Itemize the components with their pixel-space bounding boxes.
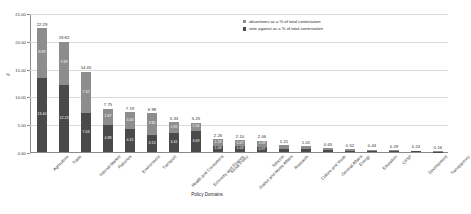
bar-column[interactable]: 2.101.071.03	[235, 140, 244, 152]
segment-value-label: 1.18	[215, 141, 222, 145]
segment-value-label: 12.13	[60, 117, 69, 121]
legend-label: vote against as a % of total contestatio…	[249, 26, 323, 31]
bar-segment-abstentions[interactable]: 7.42	[81, 72, 90, 113]
bar-segment-vote-against[interactable]: 3.41	[169, 133, 178, 152]
bar-total-label: 2.06	[258, 134, 266, 139]
bar-segment-vote-against[interactable]	[345, 151, 354, 153]
bar-segment-vote-against[interactable]: 1.08	[213, 146, 222, 152]
segment-value-label: 7.69	[61, 61, 68, 65]
y-tick-mark	[27, 42, 30, 43]
segment-value-label: 8.89	[39, 51, 46, 55]
bar-segment-abstentions[interactable]: 8.89	[37, 28, 46, 77]
bar-total-label: 0.65	[324, 142, 332, 147]
segment-value-label: 1.56	[193, 125, 200, 129]
segment-value-label: 7.03	[83, 131, 90, 135]
bar-segment-vote-against[interactable]: 0.97	[257, 147, 266, 152]
segment-value-label: 4.15	[127, 139, 134, 143]
x-axis-label: Research	[293, 154, 309, 170]
bar-column[interactable]: 6.983.853.13	[147, 113, 156, 152]
bar-total-label: 14.45	[81, 65, 92, 70]
bar-column[interactable]: 7.752.874.88	[103, 109, 112, 152]
bar-column[interactable]: 5.331.923.41	[169, 122, 178, 152]
bar-column[interactable]: 0.16	[433, 151, 442, 152]
y-tick-label: 25.00	[15, 12, 26, 17]
legend-label: absentions as a % of total contestation	[249, 19, 321, 24]
bar-segment-vote-against[interactable]: 3.69	[191, 131, 200, 152]
bar-segment-vote-against[interactable]	[389, 151, 398, 152]
y-tick-mark	[27, 97, 30, 98]
bar-total-label: 2.26	[214, 133, 222, 138]
x-axis-label: Transport	[161, 154, 177, 170]
bar-total-label: 7.19	[126, 106, 134, 111]
bar-column[interactable]: 0.24	[411, 151, 420, 152]
legend-swatch-icon	[243, 27, 246, 30]
segment-value-label: 3.41	[171, 141, 178, 145]
legend-item[interactable]: absentions as a % of total contestation	[243, 19, 323, 24]
bar-column[interactable]: 5.251.563.69	[191, 123, 200, 152]
bar-segment-abstentions[interactable]: 3.85	[147, 113, 156, 134]
bar-segment-vote-against[interactable]	[411, 151, 420, 152]
bar-total-label: 0.44	[368, 143, 376, 148]
bar-segment-vote-against[interactable]: 3.13	[147, 135, 156, 152]
legend-item[interactable]: vote against as a % of total contestatio…	[243, 26, 323, 31]
segment-value-label: 1.92	[171, 126, 178, 130]
bar-column[interactable]: 1.21	[279, 145, 288, 152]
bar-total-label: 6.98	[148, 107, 156, 112]
segment-value-label: 1.07	[237, 142, 244, 146]
y-tick-label: 20.00	[15, 39, 26, 44]
bar-column[interactable]: 2.061.090.97	[257, 141, 266, 152]
bar-segment-abstentions[interactable]: 7.69	[59, 42, 68, 85]
legend: absentions as a % of total contestationv…	[243, 19, 323, 34]
segment-value-label: 3.69	[193, 140, 200, 144]
segment-value-label: 3.85	[149, 122, 156, 126]
bar-segment-vote-against[interactable]: 1.03	[235, 146, 244, 152]
bar-segment-vote-against[interactable]	[367, 151, 376, 152]
bar-segment-vote-against[interactable]	[279, 149, 288, 152]
x-axis-label: Environment	[141, 154, 161, 174]
segment-value-label: 3.04	[127, 119, 134, 123]
x-axis-line	[30, 152, 448, 153]
bar-total-label: 0.29	[390, 144, 398, 149]
bar-segment-abstentions[interactable]: 1.92	[169, 122, 178, 133]
bar-segment-abstentions[interactable]: 1.56	[191, 123, 200, 132]
bar-segment-vote-against[interactable]: 7.03	[81, 113, 90, 152]
bar-column[interactable]: 0.65	[323, 148, 332, 152]
segment-value-label: 2.87	[105, 115, 112, 119]
bar-column[interactable]: 1.01	[301, 146, 310, 152]
bar-segment-abstentions[interactable]: 3.04	[125, 112, 134, 129]
y-tick-label: 0.00	[18, 151, 26, 156]
x-axis-label: Education	[381, 154, 398, 171]
bar-column[interactable]: 0.52	[345, 149, 354, 152]
bar-segment-vote-against[interactable]	[323, 150, 332, 152]
bar-segment-vote-against[interactable]: 4.88	[103, 125, 112, 152]
bars-layer: 22.298.8913.4019.827.6912.1314.457.427.0…	[31, 14, 448, 152]
bar-segment-vote-against[interactable]	[301, 149, 310, 152]
y-tick-mark	[27, 153, 30, 154]
bar-segment-abstentions[interactable]: 2.87	[103, 109, 112, 125]
x-axis-label: Agriculture	[52, 154, 70, 172]
bar-total-label: 0.24	[412, 144, 420, 149]
bar-total-label: 5.33	[170, 116, 178, 121]
bar-total-label: 0.52	[346, 143, 354, 148]
bar-segment-vote-against[interactable]: 12.13	[59, 85, 68, 152]
bar-column[interactable]: 19.827.6912.13	[59, 42, 68, 152]
segment-value-label: 0.97	[259, 148, 266, 152]
bar-column[interactable]: 2.261.181.08	[213, 139, 222, 152]
bar-segment-vote-against[interactable]: 4.15	[125, 129, 134, 152]
bar-segment-vote-against[interactable]: 13.40	[37, 78, 46, 153]
bar-column[interactable]: 0.44	[367, 150, 376, 152]
segment-value-label: 4.88	[105, 137, 112, 141]
bar-column[interactable]: 22.298.8913.40	[37, 28, 46, 152]
x-axis-title-text: Policy Domains	[191, 192, 223, 197]
segment-value-label: 1.03	[237, 147, 244, 151]
bar-total-label: 1.21	[280, 139, 288, 144]
plot-area: 0.005.0010.0015.0020.0025.00 22.298.8913…	[30, 14, 448, 153]
bar-total-label: 5.25	[192, 116, 200, 121]
bar-column[interactable]: 7.193.044.15	[125, 112, 134, 152]
bar-column[interactable]: 14.457.427.03	[81, 72, 90, 152]
y-tick-mark	[27, 14, 30, 15]
bar-column[interactable]: 0.29	[389, 150, 398, 152]
segment-value-label: 7.42	[83, 91, 90, 95]
y-tick-mark	[27, 70, 30, 71]
